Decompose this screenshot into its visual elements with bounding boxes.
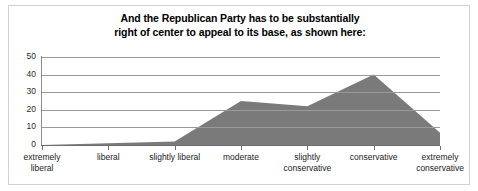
- x-axis-tick: [241, 146, 242, 150]
- x-axis-tick: [42, 146, 43, 150]
- x-axis-tick-label: conservative: [337, 152, 411, 163]
- x-axis-tick-label-line: liberal: [5, 163, 79, 174]
- plot-region: 01020304050extremelyliberalliberalslight…: [0, 0, 478, 191]
- gridline: [42, 127, 440, 128]
- y-axis-tick-label: 0: [10, 140, 36, 149]
- x-axis-tick-label-line: slightly liberal: [138, 152, 212, 163]
- y-axis-tick-label: 30: [10, 87, 36, 96]
- chart-figure: And the Republican Party has to be subst…: [0, 0, 478, 191]
- gridline: [42, 92, 440, 93]
- x-axis-tick-label: moderate: [204, 152, 278, 163]
- x-axis-tick-label-line: slightly: [270, 152, 344, 163]
- x-axis-tick-label-line: extremely: [5, 152, 79, 163]
- gridline: [42, 57, 440, 58]
- x-axis-tick-label-line: conservative: [403, 163, 477, 174]
- gridline: [42, 110, 440, 111]
- area-series: [42, 57, 440, 145]
- x-axis-tick-label-line: extremely: [403, 152, 477, 163]
- x-axis-tick-label: slightlyconservative: [270, 152, 344, 173]
- x-axis-tick-label-line: conservative: [270, 163, 344, 174]
- y-axis-tick-label: 40: [10, 70, 36, 79]
- y-axis-tick-label: 10: [10, 122, 36, 131]
- y-axis-tick-label: 50: [10, 52, 36, 61]
- x-axis-tick: [108, 146, 109, 150]
- x-axis-tick: [440, 146, 441, 150]
- x-axis-tick-label-line: conservative: [337, 152, 411, 163]
- y-axis-tick-label: 20: [10, 105, 36, 114]
- x-axis-tick-label: slightly liberal: [138, 152, 212, 163]
- x-axis-tick: [307, 146, 308, 150]
- x-axis-tick: [374, 146, 375, 150]
- x-axis-tick-label-line: liberal: [71, 152, 145, 163]
- x-axis-tick-label: liberal: [71, 152, 145, 163]
- x-axis-tick: [175, 146, 176, 150]
- x-axis-tick-label: extremelyconservative: [403, 152, 477, 173]
- x-axis-tick-label: extremelyliberal: [5, 152, 79, 173]
- gridline: [42, 75, 440, 76]
- x-axis-tick-label-line: moderate: [204, 152, 278, 163]
